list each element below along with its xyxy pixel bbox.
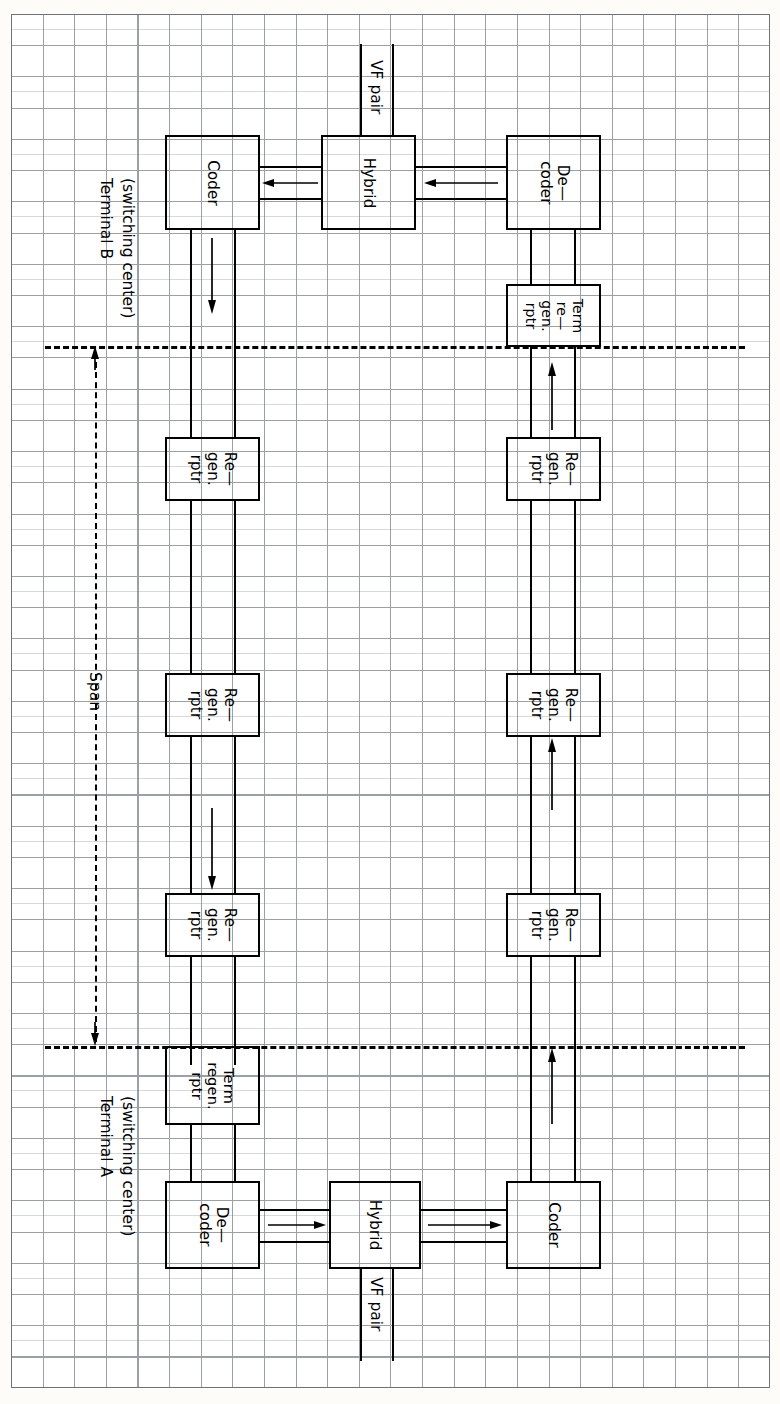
left-path-rail-left-seg5 <box>190 1123 192 1183</box>
arrow-left-path-down <box>205 808 219 890</box>
vf-pair-line-bottom-left <box>360 1267 362 1361</box>
block-regen-repeater-left-3: Re— gen. rptr <box>165 893 260 957</box>
arrow-right-path-up-1 <box>545 362 559 430</box>
terminal-b-subtitle: (switching center) <box>119 178 137 318</box>
left-path-rail-right-seg3 <box>234 735 236 895</box>
block-label-line3: rptr <box>528 691 546 720</box>
block-decoder-terminal-b: De— coder <box>506 135 601 230</box>
terminal-a-boundary-dashed-line <box>45 1046 745 1049</box>
vf-pair-line-top-right <box>392 44 394 136</box>
span-label: Span <box>85 672 103 711</box>
link-rail-hybrid-coder-a-bottom <box>419 1241 508 1243</box>
block-label-line2: gen. <box>545 452 563 486</box>
right-path-rail-left-seg1 <box>530 228 532 286</box>
terminal-b-boundary-dashed-line <box>45 346 745 349</box>
block-label-line2: regen. <box>205 1062 221 1110</box>
block-label-line2: gen. <box>204 452 222 486</box>
block-label: Term regen. rptr <box>188 1062 237 1110</box>
right-path-rail-left-seg2 <box>530 345 532 439</box>
right-path-rail-right-seg2 <box>574 345 576 439</box>
link-rail-decoder-hybrid-a-top <box>258 1209 331 1211</box>
right-path-rail-left-seg3 <box>530 499 532 675</box>
block-label-line2: coder <box>537 161 555 204</box>
block-label-line3: rptr <box>528 911 546 940</box>
arrow-hybrid-to-coder-terminal-b <box>262 176 318 190</box>
arrow-decoder-to-hybrid-terminal-b <box>424 176 498 190</box>
block-label-line3: rptr <box>187 455 205 484</box>
block-decoder-terminal-a: De— coder <box>165 1181 260 1269</box>
vf-pair-line-bottom-right <box>392 1267 394 1361</box>
right-path-rail-left-seg4 <box>530 735 532 895</box>
block-label-line2: gen. <box>204 688 222 722</box>
block-coder-terminal-a: Coder <box>506 1181 601 1269</box>
block-label-line1: Re— <box>562 908 580 943</box>
block-regen-repeater-right-1: Re— gen. rptr <box>506 437 601 501</box>
block-label-line1: Term <box>221 1068 237 1104</box>
block-label: Re— gen. rptr <box>528 452 578 487</box>
vf-pair-line-top-left <box>360 44 362 136</box>
arrow-right-path-up-2 <box>545 738 559 810</box>
block-label-line1: Re— <box>562 452 580 487</box>
link-rail-hybrid-coder-bottom <box>258 198 323 200</box>
right-path-rail-left-seg5 <box>530 955 532 1181</box>
block-regen-repeater-left-2: Re— gen. rptr <box>165 673 260 737</box>
block-hybrid-terminal-b: Hybrid <box>321 135 416 230</box>
left-path-rail-right-seg2 <box>234 499 236 675</box>
diagram-page: VF pair Coder Hybrid De— coder Terminal … <box>0 0 780 1404</box>
terminal-b-title: Terminal B <box>97 178 115 259</box>
vf-pair-label-bottom: VF pair <box>366 1277 384 1331</box>
right-path-rail-right-seg3 <box>574 499 576 675</box>
block-terminal-regen-repeater-a: Term regen. rptr <box>165 1046 260 1125</box>
left-path-rail-right-seg1 <box>234 228 236 439</box>
block-label-line3: rptr <box>188 1072 204 1100</box>
left-path-rail-right-seg5 <box>234 1123 236 1183</box>
block-label: Re— gen. rptr <box>187 688 237 723</box>
link-rail-hybrid-coder-top <box>258 166 323 168</box>
block-label-line1: Re— <box>221 908 239 943</box>
link-rail-decoder-hybrid-a-bottom <box>258 1241 331 1243</box>
block-label: Term re— gen. rptr <box>522 298 585 333</box>
block-regen-repeater-left-1: Re— gen. rptr <box>165 437 260 501</box>
block-label-line2: gen. <box>545 908 563 942</box>
link-rail-decoder-hybrid-top <box>414 166 508 168</box>
link-rail-hybrid-coder-a-top <box>419 1209 508 1211</box>
block-label-line1: Re— <box>221 688 239 723</box>
arrow-coder-b-down <box>205 238 219 314</box>
right-path-rail-right-seg4 <box>574 735 576 895</box>
block-label: Re— gen. rptr <box>528 688 578 723</box>
arrow-span-down <box>88 1022 102 1046</box>
block-label: Re— gen. rptr <box>187 452 237 487</box>
block-label-line1: Re— <box>221 452 239 487</box>
block-regen-repeater-right-3: Re— gen. rptr <box>506 893 601 957</box>
left-path-rail-left-seg1 <box>190 228 192 439</box>
block-label: Re— gen. rptr <box>187 908 237 943</box>
terminal-a-title: Terminal A <box>97 1096 115 1177</box>
block-label: De— coder <box>196 1203 230 1246</box>
block-label-line3: rptr <box>528 455 546 484</box>
arrow-decoder-to-hybrid-terminal-a <box>268 1218 326 1232</box>
right-path-rail-right-seg1 <box>574 228 576 286</box>
arrow-hybrid-to-coder-terminal-a <box>428 1218 502 1232</box>
block-label: De— coder <box>537 161 571 204</box>
block-regen-repeater-right-2: Re— gen. rptr <box>506 673 601 737</box>
link-rail-decoder-hybrid-bottom <box>414 198 508 200</box>
block-label-line4: rptr <box>523 302 539 329</box>
block-label: Hybrid <box>367 1200 384 1251</box>
arrow-right-path-up-3 <box>545 1048 559 1124</box>
block-label-line1: Re— <box>562 688 580 723</box>
block-label-line1: Term <box>570 298 586 333</box>
block-label-line2: gen. <box>204 908 222 942</box>
block-terminal-regen-repeater-b: Term re— gen. rptr <box>506 284 601 347</box>
block-coder-terminal-b: Coder <box>165 135 260 230</box>
block-label: Coder <box>204 160 221 206</box>
left-path-rail-left-seg3 <box>190 735 192 895</box>
block-label-line3: rptr <box>187 911 205 940</box>
block-label-line2: coder <box>196 1203 214 1246</box>
block-label-line1: De— <box>212 1207 230 1243</box>
block-label-line2: gen. <box>545 688 563 722</box>
block-label-line2: re— <box>554 301 570 330</box>
terminal-a-label: Terminal A <box>96 1096 114 1177</box>
arrow-span-up <box>88 346 102 370</box>
block-label-line3: gen. <box>539 300 555 332</box>
terminal-b-sublabel: (switching center) <box>118 178 136 318</box>
